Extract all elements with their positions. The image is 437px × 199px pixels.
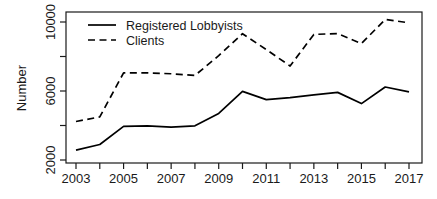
legend-label-registered-lobbyists: Registered Lobbyists (126, 19, 243, 33)
x-tick-label: 2003 (62, 171, 91, 186)
y-tick-label: 10000 (43, 4, 58, 40)
line-chart-canvas: 2000600010000 20032005200720092011201320… (0, 0, 437, 199)
chart-figure: 2000600010000 20032005200720092011201320… (0, 0, 437, 199)
x-tick-label: 2007 (157, 171, 186, 186)
y-axis-title: Number (14, 64, 29, 111)
y-tick-label: 2000 (43, 146, 58, 175)
x-tick-label: 2011 (252, 171, 280, 186)
y-axis-tick-labels: 2000600010000 (43, 4, 58, 175)
y-tick-label: 6000 (43, 77, 58, 106)
y-axis-ticks (60, 22, 66, 160)
x-axis-tick-labels: 20032005200720092011201320152017 (62, 171, 424, 186)
legend-label-clients: Clients (126, 34, 164, 48)
x-tick-label: 2009 (204, 171, 233, 186)
x-tick-label: 2013 (299, 171, 328, 186)
x-axis-ticks (76, 163, 409, 169)
chart-legend: Registered LobbyistsClients (88, 19, 243, 48)
series-line-registered-lobbyists (76, 87, 409, 150)
x-tick-label: 2017 (395, 171, 424, 186)
x-tick-label: 2005 (109, 171, 138, 186)
x-tick-label: 2015 (347, 171, 376, 186)
